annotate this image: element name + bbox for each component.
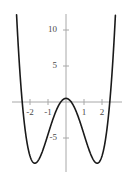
y-tick-label-10: 10 [40,25,57,34]
plot-canvas [0,0,130,177]
x-tick-label-1: 1 [76,108,92,117]
x-tick-label-2: 2 [94,108,110,117]
quartic-function-plot: 10 5 -5 -2 -1 1 2 [0,0,130,177]
y-tick-label-minus5: -5 [38,133,57,142]
x-tick-label-minus2: -2 [21,108,39,117]
x-tick-label-minus1: -1 [39,108,57,117]
y-tick-label-5: 5 [40,61,57,70]
